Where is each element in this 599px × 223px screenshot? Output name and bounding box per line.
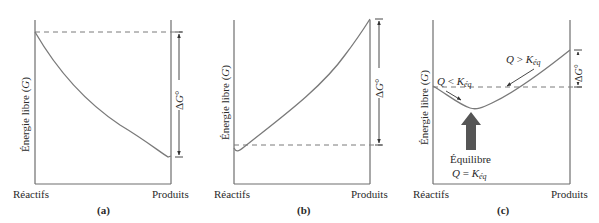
x-label-products: Produits [351, 188, 388, 200]
x-label-reactants: Réactifs [413, 188, 449, 200]
x-label-products: Produits [152, 188, 189, 200]
delta-g-label: ΔG° [173, 91, 185, 110]
q-less-than-k-label: Q < Kéq [437, 75, 472, 89]
panel-c: ΔG° Énergie libre (G) Q < Kéq Q > Kéq Éq… [413, 20, 588, 217]
x-label-reactants: Réactifs [214, 188, 250, 200]
equilibrium-arrow [461, 112, 481, 150]
y-axis-label: Énergie libre (G) [418, 70, 431, 145]
delta-g-label: ΔG° [573, 64, 584, 82]
panel-caption: (a) [97, 204, 110, 217]
equilibrium-label: Équilibre [450, 153, 491, 165]
y-axis-label: Énergie libre (G) [19, 77, 32, 152]
panel-b: ΔG° Énergie libre (G) Réactifs Produits … [214, 19, 388, 217]
right-approach-arrow [507, 69, 534, 86]
energy-curve [234, 19, 370, 151]
equilibrium-condition: Q = Kéq [452, 167, 487, 181]
panel-caption: (b) [297, 204, 311, 217]
energy-curve [35, 32, 171, 157]
panel-caption: (c) [497, 204, 510, 217]
q-greater-than-k-label: Q > Kéq [506, 53, 541, 67]
free-energy-diagram: ΔG° Énergie libre (G) Réactifs Produits … [0, 0, 599, 223]
panel-a: ΔG° Énergie libre (G) Réactifs Produits … [13, 20, 189, 217]
delta-g-label: ΔG° [373, 79, 385, 98]
x-label-reactants: Réactifs [13, 188, 49, 200]
y-axis-label: Énergie libre (G) [219, 65, 232, 140]
x-label-products: Produits [551, 188, 588, 200]
